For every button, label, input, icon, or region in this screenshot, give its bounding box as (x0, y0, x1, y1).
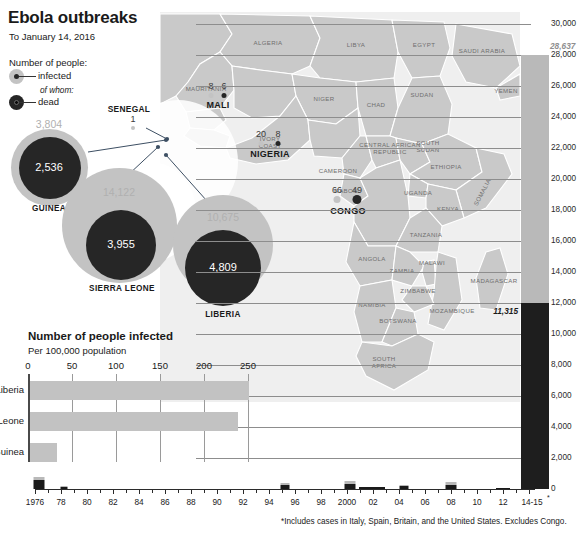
vtick-label-10000: 10,000 (551, 329, 576, 338)
marker-nigeria-label: NIGERIA (250, 149, 290, 159)
leader-guinea (88, 140, 166, 152)
bubble-sierra-leone-infected-value: 14,122 (103, 186, 135, 198)
timeline-label-12: 12 (498, 497, 507, 507)
bubble-guinea-dead-value: 2,536 (35, 161, 63, 173)
barchart-title: Number of people infected (28, 330, 173, 342)
barchart-xtick-250: 250 (240, 360, 256, 371)
timeline-tick-1979 (74, 489, 75, 493)
map-label-tanzania: TANZANIA (410, 231, 442, 238)
timeline-tick-2002 (373, 489, 374, 494)
timeline-bar-2012 (496, 488, 510, 489)
marker-mali-infected-dot (209, 93, 214, 98)
map-label-mozambique: MOZAMBIQUE (429, 307, 474, 314)
timeline-label-86: 86 (160, 497, 169, 507)
vtick-label-4000: 4,000 (551, 422, 572, 431)
infographic-root: ALGERIA LIBYA EGYPT MAURITANIA NIGER CHA… (0, 0, 588, 545)
vtick-label-28000: 28,000 (551, 50, 576, 59)
marker-congo-dead-value: 49 (352, 185, 362, 195)
map-label-madagascar: MADAGASCAR (471, 277, 518, 284)
vgrid-10000 (196, 334, 531, 335)
bubble-sierra-leone-label: SIERRA LEONE (89, 284, 155, 293)
map-label-saudi-arabia: SAUDI ARABIA (458, 47, 506, 54)
barchart-xtick-150: 150 (152, 360, 168, 371)
map-label-egypt: EGYPT (413, 41, 435, 48)
timeline-label-90: 90 (212, 497, 221, 507)
map-label-yemen: YEMEN (494, 87, 517, 94)
timeline-tick-1986 (165, 489, 166, 494)
page-title: Ebola outbreaks (8, 8, 137, 28)
timeline-bar-2000 (345, 481, 356, 489)
vgrid-30000 (196, 24, 531, 25)
marker-congo-label: CONGO (330, 206, 366, 216)
map-label-malawi: MALAWI (419, 259, 445, 266)
map-label-south-africa: SOUTH AFRICA (364, 355, 404, 369)
timeline-tick-1982 (113, 489, 114, 494)
timeline-bar-1979 (61, 486, 68, 489)
marker-nigeria-dead-dot (276, 141, 281, 146)
vtick-label-16000: 16,000 (551, 236, 576, 245)
timeline-label-04: 04 (394, 497, 403, 507)
barchart-category-liberia: Liberia (0, 385, 24, 395)
vtick-label-22000: 22,000 (551, 143, 576, 152)
timeline-tick-2013 (516, 489, 517, 493)
vtick-label-18000: 18,000 (551, 205, 576, 214)
timeline-label-94: 94 (264, 497, 273, 507)
map-label-niger: NIGER (313, 95, 334, 102)
timeline-tick-2003 (386, 489, 387, 493)
timeline-tick-1991 (230, 489, 231, 493)
barchart-bar-guinea (30, 443, 57, 462)
legend-infected-leader (19, 76, 36, 77)
page-subtitle: To January 14, 2016 (9, 31, 95, 42)
timeline-tick-1995 (282, 489, 283, 493)
barchart-subtitle: Per 100,000 population (28, 345, 126, 356)
barchart-bar-sierra-leone (30, 412, 238, 431)
timeline-tick-1978 (61, 489, 62, 494)
marker-congo-dead-dot (353, 195, 362, 204)
vgrid-22000 (196, 148, 531, 149)
barchart-xtick-100: 100 (108, 360, 124, 371)
timeline-label-78: 78 (56, 497, 65, 507)
map-label-ethiopia: ETHIOPIA (430, 163, 461, 170)
timeline-tick-1984 (139, 489, 140, 494)
vgrid-12000 (196, 303, 531, 304)
total-bar-infected (521, 55, 549, 303)
timeline-tick-2000 (347, 489, 348, 494)
timeline-axis (35, 489, 535, 490)
timeline-label-96: 96 (290, 497, 299, 507)
barchart-infected-per-100k: 0 50 100 150 200 250 Liberia Sierra Leon… (28, 360, 278, 465)
vtick-label-30000: 30,000 (551, 19, 576, 28)
timeline-bar-1995 (281, 483, 290, 489)
timeline-tick-1997 (308, 489, 309, 493)
vtick-label-24000: 24,000 (551, 112, 576, 121)
timeline-label-92: 92 (238, 497, 247, 507)
timeline-label-10: 10 (472, 497, 481, 507)
vgrid-14000 (196, 272, 531, 273)
timeline-tick-2006 (425, 489, 426, 494)
timeline-tick-1990 (217, 489, 218, 494)
bubble-sierra-leone-dead-value: 3,955 (107, 238, 135, 250)
timeline-tick-1977 (48, 489, 49, 493)
vtick-label-20000: 20,000 (551, 174, 576, 183)
timeline-tick-1976 (35, 489, 36, 494)
vgrid-28000 (196, 55, 531, 56)
timeline-tick-2008 (451, 489, 452, 494)
marker-mali-dead-dot (222, 93, 227, 98)
timeline-tick-1998 (321, 489, 322, 494)
marker-nigeria-infected-value: 20 (256, 129, 266, 139)
timeline-tick-2010 (477, 489, 478, 494)
marker-senegal-infected-value: 1 (130, 114, 135, 124)
timeline-label-06: 06 (420, 497, 429, 507)
timeline-tick-1985 (152, 489, 153, 493)
map-label-algeria: ALGERIA (254, 39, 283, 46)
vtick-label-6000: 6,000 (551, 391, 572, 400)
barchart-xtick-0: 0 (25, 360, 30, 371)
map-label-south-sudan: SOUTH SUDAN (410, 139, 446, 153)
legend-dead-leader (19, 102, 36, 103)
timeline-label-82: 82 (108, 497, 117, 507)
bubble-liberia-label: LIBERIA (205, 310, 241, 319)
timeline-bar-2003 (400, 485, 409, 489)
marker-congo-infected-dot (334, 196, 341, 203)
timeline-tick-2005 (412, 489, 413, 493)
timeline-label-02: 02 (368, 497, 377, 507)
timeline-tick-1988 (191, 489, 192, 494)
